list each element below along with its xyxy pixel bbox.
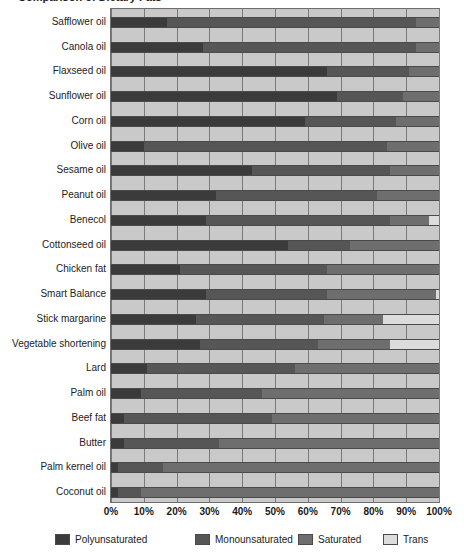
bar-segment-saturated[interactable] [327,264,439,275]
bar-segment-polyunsaturated[interactable] [111,215,206,226]
bar-segment-saturated[interactable] [409,66,439,77]
bar-segment-polyunsaturated[interactable] [111,314,196,325]
bar-row[interactable] [111,413,439,424]
bar-segment-monounsaturated[interactable] [124,413,272,424]
category-label: Cottonseed oil [0,239,106,250]
bar-rows [111,9,439,502]
bar-segment-monounsaturated[interactable] [288,240,350,251]
bar-row[interactable] [111,462,439,473]
legend-label: Saturated [318,534,361,545]
bar-segment-saturated[interactable] [295,363,439,374]
bar-segment-saturated[interactable] [390,215,429,226]
bar-segment-monounsaturated[interactable] [203,42,416,53]
bar-row[interactable] [111,487,439,498]
legend-item-monounsaturated[interactable]: Monounsaturated [195,531,293,547]
bar-segment-polyunsaturated[interactable] [111,190,216,201]
bar-segment-saturated[interactable] [387,141,439,152]
bar-row[interactable] [111,91,439,102]
bar-segment-polyunsaturated[interactable] [111,141,144,152]
bar-segment-polyunsaturated[interactable] [111,363,147,374]
bar-row[interactable] [111,190,439,201]
bar-row[interactable] [111,388,439,399]
bar-segment-saturated[interactable] [396,116,439,127]
bar-segment-monounsaturated[interactable] [180,264,328,275]
bar-segment-monounsaturated[interactable] [196,314,324,325]
bar-segment-saturated[interactable] [403,91,439,102]
bar-row[interactable] [111,240,439,251]
bar-segment-trans[interactable] [436,289,439,300]
bar-segment-polyunsaturated[interactable] [111,438,124,449]
legend-item-polyunsaturated[interactable]: Polyunsaturated [55,531,147,547]
bar-segment-monounsaturated[interactable] [216,190,377,201]
bar-segment-saturated[interactable] [219,438,439,449]
bar-segment-trans[interactable] [383,314,439,325]
bar-segment-monounsaturated[interactable] [337,91,403,102]
bar-segment-monounsaturated[interactable] [206,215,390,226]
bar-segment-monounsaturated[interactable] [167,17,416,28]
bar-segment-polyunsaturated[interactable] [111,42,203,53]
bar-segment-monounsaturated[interactable] [118,487,141,498]
bar-segment-saturated[interactable] [327,289,435,300]
bar-segment-saturated[interactable] [390,165,439,176]
category-label: Peanut oil [0,189,106,200]
bar-segment-monounsaturated[interactable] [252,165,390,176]
bar-segment-polyunsaturated[interactable] [111,240,288,251]
bar-segment-polyunsaturated[interactable] [111,264,180,275]
bar-row[interactable] [111,264,439,275]
bar-segment-polyunsaturated[interactable] [111,289,206,300]
bar-segment-saturated[interactable] [318,339,390,350]
bar-segment-saturated[interactable] [163,462,439,473]
bar-row[interactable] [111,17,439,28]
bar-segment-saturated[interactable] [324,314,383,325]
bar-segment-monounsaturated[interactable] [200,339,318,350]
bar-segment-saturated[interactable] [416,42,439,53]
bar-segment-monounsaturated[interactable] [118,462,164,473]
x-axis-ticks: 0%10%20%30%40%50%60%70%80%90%100% [110,506,440,522]
bar-row[interactable] [111,66,439,77]
bar-row[interactable] [111,141,439,152]
bar-segment-saturated[interactable] [262,388,439,399]
bar-row[interactable] [111,42,439,53]
bar-segment-monounsaturated[interactable] [206,289,327,300]
bar-row[interactable] [111,165,439,176]
x-tick-label: 30% [199,506,219,517]
bar-row[interactable] [111,363,439,374]
bar-row[interactable] [111,289,439,300]
bar-segment-monounsaturated[interactable] [147,363,295,374]
bar-segment-saturated[interactable] [272,413,439,424]
category-axis-labels: Safflower oilCanola oilFlaxseed oilSunfl… [0,8,106,503]
category-label: Butter [0,437,106,448]
bar-segment-polyunsaturated[interactable] [111,165,252,176]
bar-segment-polyunsaturated[interactable] [111,413,124,424]
legend-swatch-icon [195,534,210,545]
legend-swatch-icon [298,534,313,545]
bar-segment-saturated[interactable] [350,240,439,251]
bar-segment-monounsaturated[interactable] [327,66,409,77]
bar-row[interactable] [111,438,439,449]
bar-segment-trans[interactable] [390,339,439,350]
category-label: Coconut oil [0,486,106,497]
bar-segment-monounsaturated[interactable] [124,438,219,449]
bar-segment-monounsaturated[interactable] [305,116,397,127]
legend-item-saturated[interactable]: Saturated [298,531,361,547]
legend-item-trans[interactable]: Trans [383,531,428,547]
category-label: Palm kernel oil [0,461,106,472]
page-title: Comparison of Dietary Fats [18,0,162,3]
bar-segment-polyunsaturated[interactable] [111,17,167,28]
bar-segment-saturated[interactable] [141,487,439,498]
bar-row[interactable] [111,314,439,325]
bar-row[interactable] [111,339,439,350]
bar-segment-saturated[interactable] [416,17,439,28]
bar-segment-polyunsaturated[interactable] [111,66,327,77]
bar-segment-polyunsaturated[interactable] [111,339,200,350]
bar-row[interactable] [111,215,439,226]
bar-segment-polyunsaturated[interactable] [111,116,305,127]
bar-segment-monounsaturated[interactable] [144,141,387,152]
category-label: Benecol [0,214,106,225]
bar-segment-saturated[interactable] [377,190,439,201]
bar-segment-monounsaturated[interactable] [141,388,262,399]
bar-segment-trans[interactable] [429,215,439,226]
bar-row[interactable] [111,116,439,127]
bar-segment-polyunsaturated[interactable] [111,388,141,399]
bar-segment-polyunsaturated[interactable] [111,91,337,102]
